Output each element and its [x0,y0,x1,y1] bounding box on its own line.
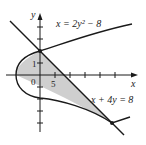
y-tick-label: 1 [32,59,37,69]
parabola-label: x = 2y² − 8 [55,18,101,29]
intersection-point-bottom [110,121,114,125]
x-axis-arrow-icon [131,73,138,78]
region-diagram: y x x = 2y² − 8 x + 4y = 8 1 0 5 [0,0,146,145]
shaded-region [16,51,112,123]
y-axis-arrow-icon [38,13,43,20]
x-axis-label: x [130,78,136,89]
y-axis-label: y [30,9,36,20]
intersection-point-top [38,49,42,53]
origin-label: 0 [31,77,36,87]
x-tick-label: 5 [51,79,56,89]
line-label: x + 4y = 8 [90,94,133,105]
